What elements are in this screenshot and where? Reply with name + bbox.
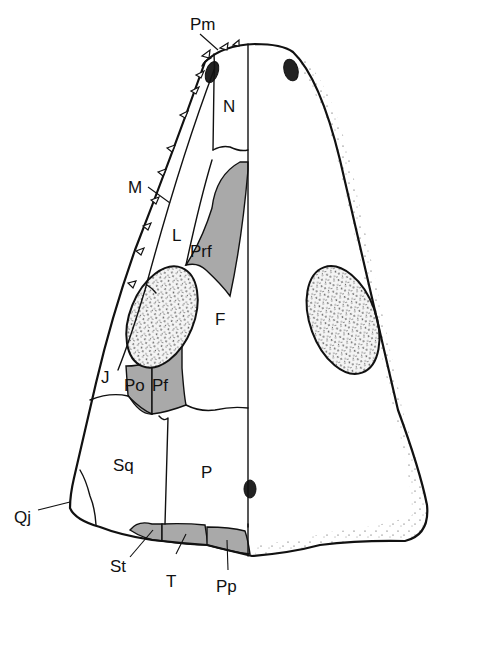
label-postfrontal: Pf: [152, 376, 168, 395]
pineal-foramen: [244, 480, 256, 498]
label-prefrontal: Prf: [190, 242, 212, 261]
label-postorbital: Po: [124, 376, 145, 395]
label-nasal: N: [223, 97, 235, 116]
label-frontal: F: [215, 310, 225, 329]
label-maxilla: M: [128, 178, 142, 197]
skull-diagram: Pm N M L Prf F J Po Pf Sq P Qj St T Pp: [0, 0, 491, 648]
label-jugal: J: [101, 368, 110, 387]
labels: Pm N M L Prf F J Po Pf Sq P Qj St T Pp: [14, 15, 237, 596]
label-parietal: P: [201, 463, 212, 482]
label-tabular: T: [166, 572, 176, 591]
label-quadratojugal: Qj: [14, 508, 31, 527]
label-supratemporal: St: [110, 557, 126, 576]
label-squamosal: Sq: [113, 456, 134, 475]
bone-prefrontal: [186, 162, 248, 296]
label-postparietal: Pp: [216, 577, 237, 596]
label-premaxilla: Pm: [190, 15, 216, 34]
label-lacrimal: L: [172, 226, 181, 245]
